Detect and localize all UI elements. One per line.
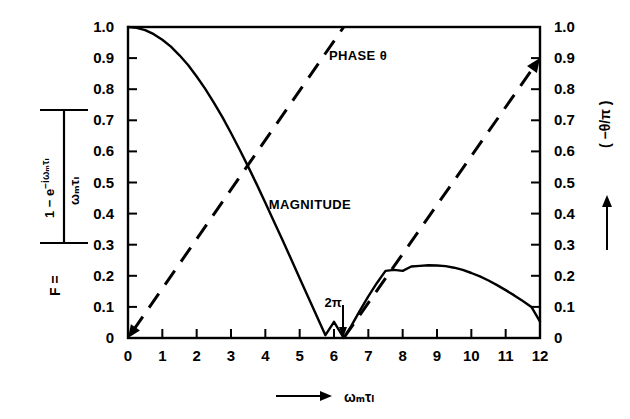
- x-tick-label: 9: [433, 347, 441, 364]
- figure-root: F = 1 − e−iωₘτₗ ωₘτₗ 00.10.20.30.40.50.6…: [0, 0, 630, 419]
- x-tick-label: 10: [463, 347, 480, 364]
- y-tick-label-right: 0.7: [554, 111, 575, 128]
- fraction-numerator-base: 1 − e: [42, 189, 57, 218]
- x-tick-label: 4: [261, 347, 270, 364]
- zero-crossing-marker: 2π: [325, 295, 342, 310]
- x-tick-label: 0: [124, 347, 132, 364]
- y-tick-label-left: 0.8: [93, 80, 114, 97]
- y-tick-label-left: 0.2: [93, 267, 114, 284]
- x-tick-label: 2: [192, 347, 200, 364]
- fraction-denominator-group: ωₘτₗ: [67, 177, 82, 205]
- x-tick-label: 3: [227, 347, 235, 364]
- y-tick-label-left: 0.5: [93, 174, 114, 191]
- x-tick-label: 11: [498, 347, 514, 364]
- chart-canvas: F = 1 − e−iωₘτₗ ωₘτₗ 00.10.20.30.40.50.6…: [0, 0, 630, 419]
- y-tick-label-right: 0.4: [554, 205, 576, 222]
- y-tick-label-left: 0.7: [93, 111, 114, 128]
- x-tick-label: 5: [295, 347, 303, 364]
- y-tick-label-right: 1.0: [554, 18, 575, 35]
- fraction-numerator-exponent: −iωₘτₗ: [40, 158, 51, 188]
- y-tick-label-left: 0: [106, 329, 114, 346]
- x-tick-label: 12: [532, 347, 549, 364]
- y-tick-label-left: 0.4: [93, 205, 115, 222]
- y-tick-label-left: 1.0: [93, 18, 114, 35]
- x-tick-label: 6: [330, 347, 338, 364]
- x-tick-label: 8: [398, 347, 406, 364]
- y-tick-label-right: 0: [554, 329, 562, 346]
- y-axis-left-label-F: F =: [47, 275, 63, 296]
- y-tick-label-left: 0.6: [93, 142, 114, 159]
- magnitude-label: MAGNITUDE: [269, 197, 351, 212]
- x-axis-label: ωₘτₗ: [344, 389, 374, 405]
- fraction-denominator: ωₘτₗ: [67, 177, 82, 205]
- y-tick-label-right: 0.3: [554, 236, 575, 253]
- y-tick-label-right: 0.1: [554, 298, 575, 315]
- y-tick-label-right: 0.8: [554, 80, 575, 97]
- y-tick-label-right: 0.5: [554, 174, 575, 191]
- x-tick-label: 1: [158, 347, 166, 364]
- y-tick-label-left: 0.1: [93, 298, 114, 315]
- phase-label: PHASE θ: [329, 48, 387, 63]
- y-tick-label-right: 0.9: [554, 49, 575, 66]
- y-axis-right-label: ( −θ/π ): [597, 101, 613, 148]
- y-tick-label-right: 0.2: [554, 267, 575, 284]
- y-tick-label-right: 0.6: [554, 142, 575, 159]
- y-tick-label-left: 0.3: [93, 236, 114, 253]
- y-tick-label-left: 0.9: [93, 49, 114, 66]
- x-tick-label: 7: [364, 347, 372, 364]
